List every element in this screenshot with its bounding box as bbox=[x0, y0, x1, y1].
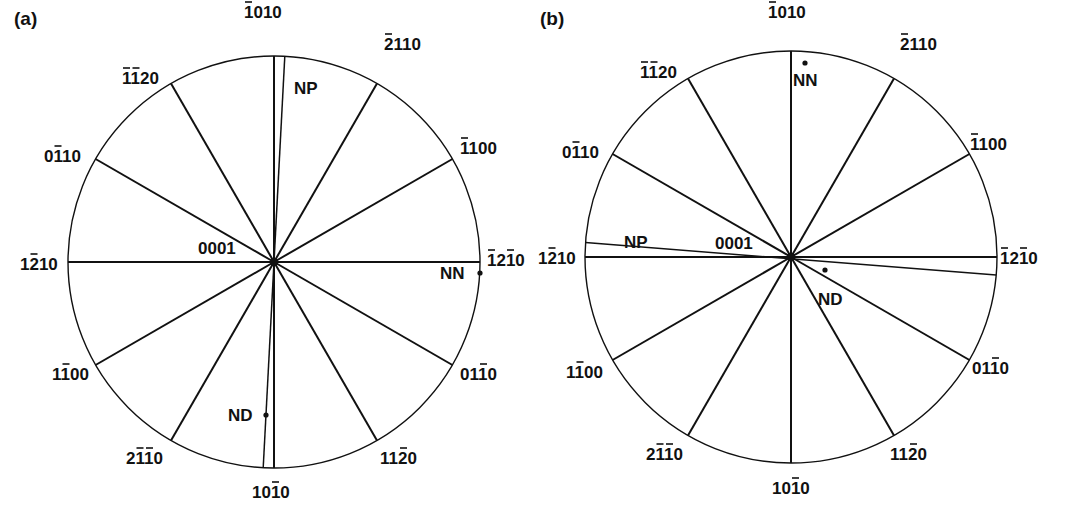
zone-line bbox=[274, 262, 377, 440]
zone-line bbox=[171, 84, 274, 262]
panel-label: (b) bbox=[540, 8, 564, 29]
zone-line bbox=[171, 262, 274, 440]
panel-label: (a) bbox=[14, 8, 37, 29]
nd-label: ND bbox=[818, 290, 843, 309]
direction-label: 0110 bbox=[44, 147, 81, 166]
direction-label: 1010 bbox=[252, 483, 290, 502]
nn-dot bbox=[477, 270, 482, 275]
direction-label: 1120 bbox=[890, 445, 927, 464]
direction-label: 1210 bbox=[487, 251, 525, 270]
direction-label: 0110 bbox=[972, 359, 1009, 378]
nd-label: ND bbox=[228, 406, 253, 425]
direction-label: 1210 bbox=[20, 255, 58, 274]
direction-label: 0110 bbox=[460, 365, 497, 384]
zone-line bbox=[791, 79, 894, 257]
panel-a: (a)1010211011001210011011201010211011001… bbox=[14, 2, 525, 502]
direction-label: 1210 bbox=[1000, 249, 1038, 268]
direction-label: 2110 bbox=[646, 445, 683, 464]
direction-label: 1100 bbox=[460, 139, 497, 158]
direction-label: 2110 bbox=[900, 35, 937, 54]
direction-label: 1010 bbox=[772, 479, 810, 498]
direction-label: 1010 bbox=[244, 3, 282, 22]
zone-line bbox=[688, 257, 791, 435]
stereographic-projection-figure: (a)1010211011001210011011201010211011001… bbox=[0, 0, 1067, 531]
zone-line bbox=[613, 257, 791, 360]
direction-label: 1120 bbox=[640, 63, 677, 82]
nn-label: NN bbox=[793, 71, 818, 90]
nd-dot bbox=[822, 267, 827, 272]
direction-label: 1210 bbox=[538, 249, 576, 268]
zone-line bbox=[96, 159, 274, 262]
zone-line bbox=[274, 262, 452, 365]
zone-line bbox=[96, 262, 274, 365]
np-label: NP bbox=[624, 233, 648, 252]
zone-line bbox=[791, 257, 894, 435]
direction-label: 0110 bbox=[562, 143, 599, 162]
zone-line bbox=[274, 84, 377, 262]
direction-label: 2110 bbox=[384, 35, 421, 54]
nd-dot bbox=[263, 412, 268, 417]
pole-0001-dot bbox=[270, 258, 278, 266]
nn-dot bbox=[802, 60, 807, 65]
panel-b: (b)1010211011001210011011201010211011001… bbox=[538, 2, 1038, 498]
zone-line bbox=[274, 159, 452, 262]
direction-label: 1010 bbox=[768, 3, 806, 22]
direction-label: 1120 bbox=[122, 69, 159, 88]
direction-label: 1100 bbox=[52, 365, 89, 384]
pole-0001-dot bbox=[787, 253, 795, 261]
nn-label: NN bbox=[440, 264, 465, 283]
pole-0001-label: 0001 bbox=[198, 239, 236, 258]
direction-label: 1100 bbox=[970, 135, 1007, 154]
direction-label: 1120 bbox=[380, 449, 417, 468]
zone-line bbox=[688, 79, 791, 257]
direction-label: 2110 bbox=[126, 449, 163, 468]
pole-0001-label: 0001 bbox=[715, 234, 753, 253]
zone-line bbox=[791, 154, 969, 257]
np-label: NP bbox=[294, 79, 318, 98]
direction-label: 1100 bbox=[566, 363, 603, 382]
